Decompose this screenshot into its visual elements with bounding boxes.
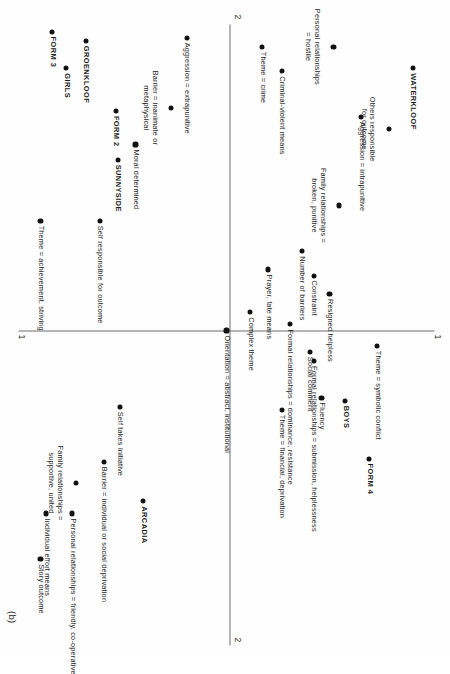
x-axis-line bbox=[229, 24, 230, 645]
axis1-label-bottom: 1 bbox=[16, 334, 26, 339]
data-point-label: WATERKLOOF bbox=[408, 73, 417, 130]
data-point-label: Family relationships = supportive, unite… bbox=[45, 445, 62, 520]
data-point-label: Family relationships = broken, punitive bbox=[309, 167, 326, 242]
data-point bbox=[184, 35, 189, 40]
data-point bbox=[279, 407, 284, 412]
data-point-label: Personal relationships = friendly, co-op… bbox=[67, 518, 76, 674]
data-point-label: Fluency bbox=[317, 402, 326, 429]
data-point bbox=[287, 321, 292, 326]
data-point bbox=[247, 309, 252, 314]
data-point bbox=[374, 343, 379, 348]
axis1-label-top: 1 bbox=[432, 334, 442, 339]
data-point-label: Formal relationships = submission, helpl… bbox=[309, 366, 318, 532]
data-point-label: Theme = symbolic conflict bbox=[372, 350, 381, 439]
axis2-label-right: 2 bbox=[232, 637, 242, 642]
data-point bbox=[330, 44, 335, 49]
data-point bbox=[307, 349, 312, 354]
data-point-label: Constraint bbox=[309, 280, 318, 315]
data-point-label: Complex theme bbox=[246, 317, 255, 371]
data-point bbox=[336, 202, 341, 207]
axis2-label-left: 2 bbox=[232, 14, 242, 19]
data-point bbox=[115, 157, 120, 162]
data-point-label: BOYS bbox=[341, 405, 350, 428]
data-point bbox=[73, 480, 78, 485]
data-point bbox=[117, 404, 122, 409]
data-point bbox=[299, 248, 304, 253]
data-point bbox=[97, 218, 102, 223]
data-point-label: Moral determined bbox=[131, 149, 140, 209]
data-point-label: Barrier = inanimate or metaphysical bbox=[140, 70, 157, 145]
data-point bbox=[132, 141, 137, 146]
data-point bbox=[259, 44, 264, 49]
data-point bbox=[83, 38, 88, 43]
data-point-label: Criminal-violent means bbox=[277, 76, 286, 154]
data-point-label: SUNNYSIDE bbox=[113, 164, 122, 211]
data-point bbox=[69, 510, 74, 515]
data-point bbox=[168, 105, 173, 110]
data-point-label: Theme = achievement, striving bbox=[36, 225, 45, 330]
data-point bbox=[63, 65, 68, 70]
data-point bbox=[43, 510, 48, 515]
data-point bbox=[101, 459, 106, 464]
data-point bbox=[319, 395, 324, 400]
data-point-label: GIRLS bbox=[61, 73, 70, 98]
data-point-label: ARCADIA bbox=[139, 506, 148, 543]
data-point bbox=[49, 29, 54, 34]
data-point bbox=[113, 108, 118, 113]
data-point-label: Self responsible for outcome bbox=[95, 225, 104, 323]
data-point bbox=[311, 358, 316, 363]
data-point-label: Number of barriers bbox=[297, 256, 306, 320]
data-point bbox=[140, 498, 145, 503]
data-point-label: Others responsible for outcome bbox=[358, 96, 375, 161]
data-point bbox=[311, 273, 316, 278]
data-point-label: Prayer, fate means bbox=[263, 274, 272, 339]
data-point-label: FORM 2 bbox=[111, 115, 120, 146]
data-point bbox=[37, 556, 42, 561]
data-point-label: FORM 3 bbox=[48, 36, 57, 67]
data-point-label: Self takes initiative bbox=[115, 411, 124, 475]
data-point bbox=[386, 126, 391, 131]
data-point bbox=[223, 327, 228, 332]
data-point-label: FORM 4 bbox=[364, 463, 373, 494]
data-point-label: Aggression = extrapunitive bbox=[182, 42, 191, 133]
data-point bbox=[342, 398, 347, 403]
data-point-label: Theme = crime bbox=[257, 51, 266, 102]
data-point-label: Story outcome bbox=[36, 564, 45, 614]
data-point bbox=[326, 291, 331, 296]
data-point-label: Resigned helpless bbox=[325, 298, 334, 361]
data-point bbox=[279, 68, 284, 73]
data-point-label: Theme = financial, deprivation bbox=[277, 414, 286, 517]
data-point bbox=[410, 65, 415, 70]
panel-label: (b) bbox=[7, 611, 18, 624]
data-point bbox=[265, 266, 270, 271]
data-point bbox=[366, 456, 371, 461]
data-point-label: Barrier = individual or social deprivati… bbox=[99, 466, 108, 602]
data-point-label: GROENKLOOF bbox=[81, 45, 90, 102]
data-point-label: Personal relationships = hostile bbox=[303, 8, 320, 84]
data-point-label: Orientation = abstract, institutional bbox=[222, 335, 231, 453]
data-point bbox=[37, 218, 42, 223]
